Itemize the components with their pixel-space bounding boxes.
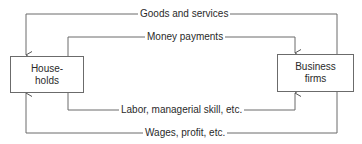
money-payments-label: Money payments: [145, 31, 225, 43]
households-label-line1: House-: [31, 63, 63, 75]
business-firms-box: Business firms: [277, 54, 354, 92]
labor-label: Labor, managerial skill, etc.: [119, 104, 244, 116]
goods-and-services-label: Goods and services: [138, 8, 230, 20]
wages-label: Wages, profit, etc.: [143, 127, 227, 139]
firms-label-line1: Business: [295, 61, 336, 73]
households-box: House- holds: [10, 56, 84, 93]
households-label-line2: holds: [35, 75, 59, 87]
firms-label-line2: firms: [305, 73, 327, 85]
